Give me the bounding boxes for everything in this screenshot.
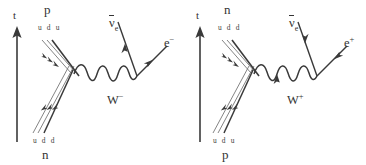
quark-lines-spectator [33, 66, 74, 133]
positron-charge: + [350, 34, 355, 44]
w-boson-label: W− [107, 92, 124, 107]
quark-lines-spectator-upper [42, 40, 76, 73]
w-boson-symbol: W [107, 93, 119, 107]
electron-label: e− [164, 35, 174, 50]
w-boson-wavy-line [74, 65, 137, 81]
bottom-hadron-quarks: u d d [33, 137, 56, 145]
top-hadron-label: p [44, 3, 51, 16]
antineutrino-symbol: ν [289, 16, 295, 30]
top-hadron-label: n [224, 3, 231, 16]
bottom-hadron-quarks: u d u [213, 137, 236, 145]
time-axis-arrow [12, 26, 21, 142]
quark-line-down [44, 70, 73, 133]
beta-minus-decay-diagram: t p u d u u d d n W− νe e− [0, 0, 183, 165]
w-boson-charge: − [119, 91, 124, 101]
electron-direction-arrow [144, 60, 154, 68]
top-hadron-quarks: u d u [38, 24, 61, 32]
time-axis-label: t [196, 10, 199, 21]
antineutrino-label: νe [109, 16, 118, 33]
quark-lines-spectator [213, 66, 254, 133]
antineutrino-subscript: e [295, 24, 299, 33]
time-axis-arrow [195, 26, 204, 142]
w-boson-symbol: W [287, 93, 299, 107]
w-boson-label: W+ [287, 92, 304, 107]
antineutrino-label: νe [289, 16, 298, 33]
bottom-hadron-label: p [222, 148, 229, 161]
positron-line [317, 46, 347, 76]
feynman-diagram-figure: t p u d u u d d n W− νe e− [0, 0, 366, 165]
antineutrino-symbol: ν [109, 16, 115, 30]
w-boson-wavy-line [254, 65, 317, 81]
quark-lines-spectator-upper [222, 40, 256, 73]
beta-plus-decay-diagram: t n u d d u d u p W+ νe e+ [183, 0, 366, 165]
bottom-hadron-label: n [42, 148, 49, 161]
w-boson-charge: + [299, 91, 304, 101]
positron-direction-arrow [334, 52, 344, 60]
time-axis-label: t [13, 10, 16, 21]
quark-line-down [224, 70, 253, 133]
positron-label: e+ [344, 35, 354, 50]
electron-charge: − [170, 34, 175, 44]
top-hadron-quarks: u d d [218, 24, 241, 32]
antineutrino-subscript: e [115, 24, 119, 33]
